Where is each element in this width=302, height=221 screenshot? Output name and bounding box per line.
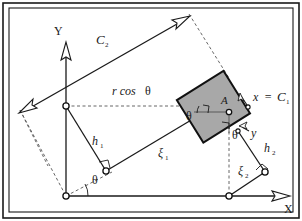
dashed-left-to-origin [20,110,66,196]
r-cos-theta-angle-glyph: θ [145,84,151,98]
h2-label: h [264,141,270,155]
y-axis-label: Y [54,24,63,38]
xi1-label: ξ [158,146,164,160]
xi2-label-subscript: 2 [245,172,249,180]
y-axis-arrowhead-icon [61,42,71,60]
c1-equation-subscript: 1 [286,98,290,106]
x-axis-node [226,193,232,199]
xi2-label: ξ [238,164,244,178]
local-x-node [246,105,250,109]
geometry-diagram: Y X C 2 h 1 ξ 1 h 2 ξ 2 [0,0,302,221]
h1-label-subscript: 1 [100,142,104,150]
dashed-origin-theta-ray [66,172,112,196]
theta-label-body-left: θ [186,109,192,123]
point-a-label: A [220,94,228,106]
figure-container: Y X C 2 h 1 ξ 1 h 2 ξ 2 [0,0,302,221]
h1-label: h [92,134,98,148]
c2-link-line [28,20,184,109]
h2-xi2-joint-node [262,169,268,175]
origin-node [63,193,69,199]
c1-equation-rhs: C [277,89,286,104]
h2-label-subscript: 2 [272,149,276,157]
x-axis-label: X [284,202,293,216]
c2-lower-arrowhead-icon [19,99,37,113]
dashed-left-lower [20,110,48,166]
outer-frame-border [3,3,299,218]
h1-link-line [66,106,106,171]
c2-label-subscript: 2 [105,41,109,49]
right-angle-marker-h1-xi1 [99,160,110,168]
local-x-label: x [252,90,259,104]
y-axis-pivot-node [63,103,69,109]
local-y-arrowhead-icon [239,122,247,129]
x-axis-arrowhead-icon [272,191,290,201]
local-y-label: y [250,126,257,140]
r-cos-theta-label: r cos [112,84,136,98]
c2-label: C [96,32,105,47]
c1-equation-equals: = [264,90,272,104]
c2-upper-arrowhead-icon [172,16,190,29]
point-a-node [226,109,231,114]
theta-label-origin: θ [92,173,98,187]
local-y-node [236,129,240,133]
dashed-c2-to-body [189,14,229,78]
h1-xi1-joint-node [103,168,109,174]
xi1-label-subscript: 1 [165,154,169,162]
